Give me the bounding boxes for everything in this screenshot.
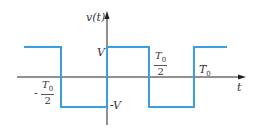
tick-pos-half-period: T0 2 (154, 51, 167, 77)
level-low-label: -V (110, 100, 121, 111)
tick-period: T0 (199, 64, 211, 78)
x-axis-label: t (237, 82, 241, 93)
x-axis-arrow-icon (238, 75, 246, 80)
square-wave-plot (0, 0, 256, 129)
y-axis-label: v(t) (86, 12, 105, 23)
y-axis-arrow-icon (105, 11, 110, 19)
level-high-label: V (97, 47, 105, 58)
tick-neg-half-period: T0 2 (41, 80, 54, 106)
tick-neg-sign: - (34, 88, 38, 99)
